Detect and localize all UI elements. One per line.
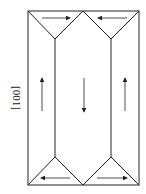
crystal-outline — [28, 11, 139, 185]
bottom-closure-boundaries — [28, 157, 139, 185]
top-closure-boundaries — [28, 11, 139, 39]
axis-label: [001] — [11, 85, 23, 111]
